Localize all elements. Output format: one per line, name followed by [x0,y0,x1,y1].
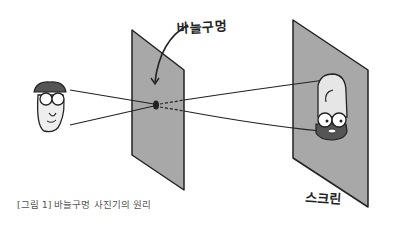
pinhole-label: 바늘구멍 [177,16,228,38]
object-face-upright [34,82,66,132]
light-rays [70,80,325,131]
screen-label: 스크린 [304,187,341,208]
pinhole [153,101,159,110]
figure-caption: [그림 1] 바늘구멍 사진기의 원리 [17,197,151,211]
inverted-image-face [316,74,347,140]
